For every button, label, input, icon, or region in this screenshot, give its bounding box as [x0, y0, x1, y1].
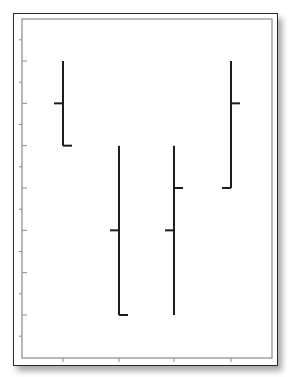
plot-area-border: [22, 19, 272, 358]
ohlc-chart: [0, 0, 290, 377]
